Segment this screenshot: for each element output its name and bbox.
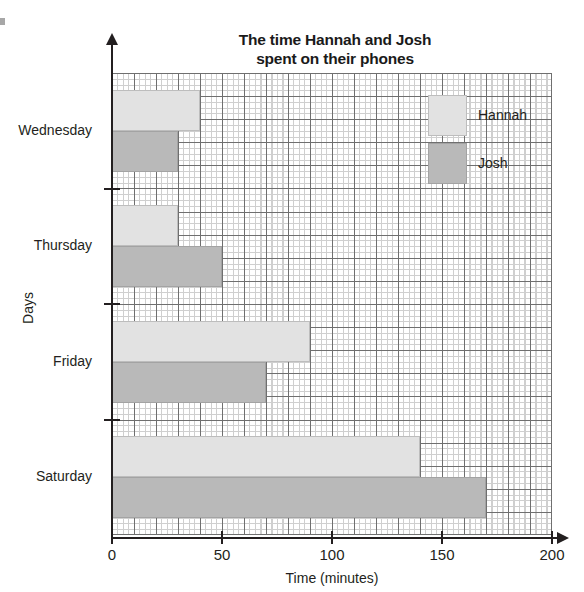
- bar-friday-josh: [112, 362, 266, 403]
- legend-label-josh: Josh: [478, 155, 508, 171]
- x-tick-label-150: 150: [412, 546, 472, 563]
- y-category-label-saturday: Saturday: [0, 468, 104, 484]
- y-axis-line: [111, 44, 113, 539]
- x-tick-100: [331, 531, 333, 544]
- plot-area: HannahJosh: [112, 73, 552, 535]
- y-category-label-friday: Friday: [0, 353, 104, 369]
- bar-wednesday-hannah: [112, 90, 200, 131]
- x-axis-arrow-icon: [557, 532, 569, 544]
- y-tick-2: [104, 303, 120, 305]
- x-tick-0: [111, 531, 113, 544]
- bar-friday-hannah: [112, 321, 310, 362]
- y-axis-title: Days: [20, 268, 36, 348]
- x-axis-line: [111, 537, 559, 539]
- y-category-label-thursday: Thursday: [0, 237, 104, 253]
- y-axis-arrow-icon: [106, 33, 118, 45]
- x-tick-label-50: 50: [192, 546, 252, 563]
- x-tick-label-0: 0: [82, 546, 142, 563]
- bar-thursday-josh: [112, 246, 222, 287]
- bar-thursday-hannah: [112, 205, 178, 246]
- x-tick-50: [221, 531, 223, 544]
- bar-saturday-josh: [112, 477, 486, 518]
- y-category-label-wednesday: Wednesday: [0, 122, 104, 138]
- x-tick-label-100: 100: [302, 546, 362, 563]
- bar-wednesday-josh: [112, 131, 178, 172]
- y-tick-1: [104, 188, 120, 190]
- legend-swatch-josh: [428, 143, 467, 184]
- x-tick-150: [441, 531, 443, 544]
- x-tick-label-200: 200: [522, 546, 582, 563]
- bar-saturday-hannah: [112, 436, 420, 477]
- x-axis-title: Time (minutes): [112, 570, 552, 586]
- x-tick-200: [551, 531, 553, 544]
- scan-artifact: [0, 18, 5, 25]
- chart-title: The time Hannah and Josh spent on their …: [120, 30, 550, 68]
- legend-label-hannah: Hannah: [478, 107, 527, 123]
- legend-swatch-hannah: [428, 95, 467, 136]
- y-tick-3: [104, 419, 120, 421]
